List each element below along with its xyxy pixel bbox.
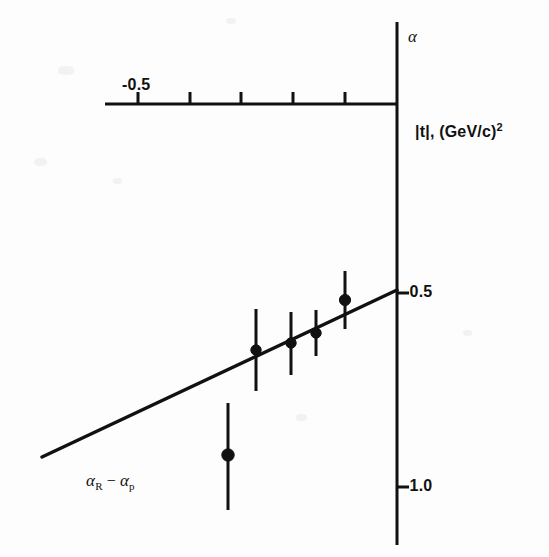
x-tick-label-0.5: -0.5 bbox=[122, 76, 150, 94]
figure-canvas: α |t|, (GeV/c)2 -0.5 -0.5 -1.0 αR−αp bbox=[0, 0, 549, 557]
t-axis-label: |t|, (GeV/c)2 bbox=[415, 121, 503, 141]
data-series-points bbox=[222, 271, 351, 510]
data-point-outlier bbox=[222, 403, 234, 510]
alpha-axis-label: α bbox=[408, 27, 417, 47]
data-point bbox=[339, 271, 350, 329]
data-point bbox=[286, 312, 296, 375]
x-axis-ticks bbox=[138, 92, 345, 104]
axes-group bbox=[105, 22, 397, 545]
subscript-r: R bbox=[95, 480, 103, 492]
series-annotation: αR−αp bbox=[86, 471, 135, 492]
subscript-p: p bbox=[129, 480, 135, 492]
data-point bbox=[311, 310, 321, 356]
y-tick-label-0.5: -0.5 bbox=[404, 283, 432, 301]
t-axis-label-exponent: 2 bbox=[497, 121, 503, 133]
y-tick-label-1.0: -1.0 bbox=[404, 477, 432, 495]
data-point bbox=[251, 309, 261, 391]
alpha-symbol-r: α bbox=[86, 471, 95, 490]
y-axis-ticks bbox=[397, 293, 409, 487]
plot-svg bbox=[0, 0, 549, 557]
minus-symbol: − bbox=[103, 472, 120, 489]
alpha-symbol-p: α bbox=[120, 471, 129, 490]
t-axis-label-text: |t|, (GeV/c) bbox=[415, 123, 497, 140]
